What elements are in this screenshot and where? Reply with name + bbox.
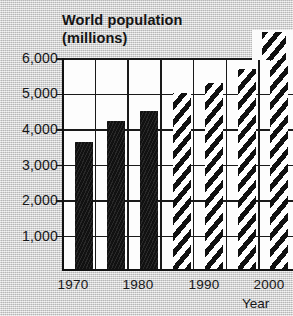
bar-2000-overflow (262, 32, 286, 60)
x-axis-title: Year (242, 296, 269, 311)
bar-2000 (270, 58, 288, 269)
y-axis-label-5000: 5,000 (4, 86, 58, 100)
bar-1980 (140, 111, 158, 269)
chart-title-line-1: World population (62, 12, 183, 28)
world-population-bar-chart: World population (millions) 6,000 5,000 … (0, 0, 293, 316)
chart-title-line-2: (millions) (62, 29, 183, 47)
y-axis-label-1000: 1,000 (4, 229, 58, 243)
column-divider-5 (226, 58, 228, 271)
column-divider-6 (258, 58, 260, 271)
plot-area (62, 58, 293, 271)
column-divider-3 (160, 58, 162, 271)
x-axis-label-2000: 2000 (249, 277, 289, 292)
column-divider-4 (193, 58, 195, 271)
y-axis-label-6000: 6,000 (4, 51, 58, 65)
axis-line-x (62, 269, 293, 271)
column-divider-2 (127, 58, 129, 271)
bar-1975 (107, 121, 125, 269)
bar-1990 (205, 83, 223, 269)
y-axis-label-3000: 3,000 (4, 158, 58, 172)
chart-title: World population (millions) (62, 11, 183, 47)
x-axis-label-1990: 1990 (184, 277, 224, 292)
y-axis-label-2000: 2,000 (4, 193, 58, 207)
axis-line-y (62, 58, 64, 271)
bar-1995 (238, 69, 256, 269)
bar-1985 (173, 93, 191, 269)
x-axis-label-1980: 1980 (118, 277, 158, 292)
bar-1970 (75, 142, 93, 269)
column-divider-1 (95, 58, 97, 271)
x-axis-label-1970: 1970 (53, 277, 93, 292)
y-axis-label-4000: 4,000 (4, 122, 58, 136)
